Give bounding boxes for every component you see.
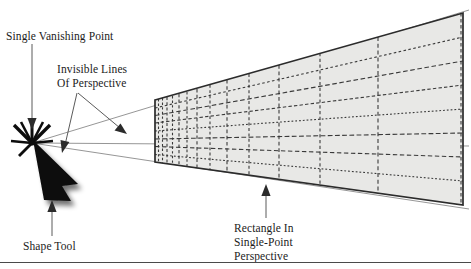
starburst-center — [29, 140, 34, 145]
label-shape-tool: Shape Tool — [23, 239, 76, 253]
label-rectangle-in-single-point-perspective: Rectangle In Single-Point Perspective — [234, 221, 294, 264]
label-single-vanishing-point: Single Vanishing Point — [6, 29, 113, 43]
label-invisible-lines-of-perspective: Invisible Lines Of Perspective — [57, 62, 127, 90]
page-rule-divider — [0, 262, 471, 263]
